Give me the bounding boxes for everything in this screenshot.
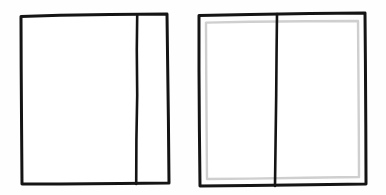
- right-figure-panel-left: [206, 22, 275, 178]
- figure-left: [21, 14, 169, 184]
- left-figure-divider: [136, 15, 137, 184]
- right-figure-panel-right: [278, 22, 358, 178]
- left-figure-panel-side: [138, 15, 167, 183]
- right-figure-divider: [275, 14, 277, 186]
- sketch-canvas: [0, 0, 386, 195]
- diagram-svg: [0, 0, 386, 195]
- figure-right: [199, 13, 366, 186]
- left-figure-panel-main: [22, 16, 136, 183]
